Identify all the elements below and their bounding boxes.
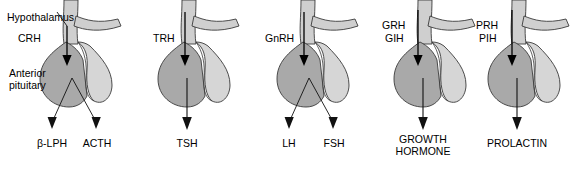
output-label-tsh: TSH [157,137,217,149]
anterior-lobe [158,42,205,107]
hypothalamic-branch [74,16,121,30]
gnrh-label: GnRH [265,33,294,45]
panel-trh: TRH TSH [132,0,252,169]
output-label-prolactin: PROLACTIN [467,137,567,149]
hypothalamus-label: Hypothalamus [7,11,74,24]
output-arrow-head [512,117,522,130]
grh-label: GRH [382,20,405,32]
output-label-growth-hormone-line1: GROWTH [380,133,466,145]
output-arrow-right-head [92,117,101,129]
output-arrow-head [182,117,192,130]
prh-label: PRH [476,20,498,32]
output-label-growth-hormone-line2: HORMONE [380,145,466,157]
anterior-pituitary-label-line1: Anterior [9,67,46,80]
output-label-fsh: FSH [307,137,361,149]
output-arrow-head [418,117,428,130]
crh-label: CRH [18,33,41,45]
trh-label: TRH [153,33,175,45]
output-arrow-left-head [48,117,57,129]
pih-label: PIH [479,33,497,45]
gih-label: GIH [385,33,404,45]
output-arrow-right-head [329,117,338,129]
hypothalamic-branch [192,16,239,30]
panel-gnrh: GnRH LH FSH [251,0,371,169]
anterior-pituitary-label-line2: pituitary [9,79,46,92]
output-arrow-left-head [285,117,294,129]
hypothalamic-branch [522,16,569,30]
output-label-acth: ACTH [68,137,126,149]
hypothalamic-branch [311,16,358,30]
panel-prh-pih: PRH PIH PROLACTIN [462,0,574,169]
